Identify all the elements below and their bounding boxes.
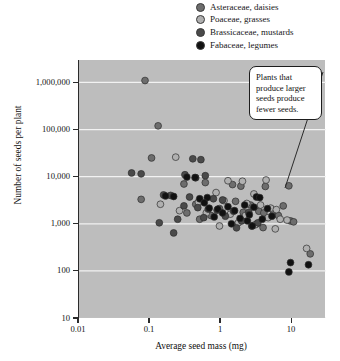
data-point <box>269 213 276 220</box>
x-axis-tick-label: 0.1 <box>129 325 169 334</box>
legend-item-label: Poaceae, grasses <box>210 15 270 24</box>
data-point <box>181 202 188 209</box>
y-axis-tick-label: 10,000 <box>0 172 70 181</box>
data-point <box>170 230 177 237</box>
data-point <box>225 203 232 210</box>
legend-item-label: Brassicaceae, mustards <box>210 28 293 37</box>
circle-marker-icon <box>196 3 205 12</box>
data-point <box>262 183 269 190</box>
data-point <box>148 155 155 162</box>
legend-item-asteraceae: Asteraceae, daisies <box>196 1 340 14</box>
data-point <box>216 223 223 230</box>
data-point <box>172 154 179 161</box>
data-point <box>155 122 162 129</box>
data-point <box>174 216 181 223</box>
y-axis-tick-label: 1,000,000 <box>0 78 70 87</box>
data-point <box>264 205 271 212</box>
data-point <box>285 269 292 276</box>
y-axis-tick-label: 10 <box>0 314 70 323</box>
data-point <box>263 177 270 184</box>
data-point <box>228 220 235 227</box>
data-point <box>189 155 196 162</box>
data-point <box>287 259 294 266</box>
legend-item-label: Fabaceae, legumes <box>210 41 278 50</box>
data-point <box>237 215 244 222</box>
data-point <box>183 210 190 217</box>
y-axis-tick <box>73 223 78 224</box>
data-point <box>138 170 145 177</box>
data-point <box>277 216 284 223</box>
x-axis-title: Average seed mass (mg) <box>70 341 332 351</box>
annotation-text: Plants that produce larger seeds produce… <box>256 72 316 114</box>
data-point <box>162 193 169 200</box>
circle-marker-icon <box>196 41 205 50</box>
data-point <box>272 225 279 232</box>
x-axis-tick-label: 0.01 <box>58 325 98 334</box>
chart-legend: Asteraceae, daisies Poaceae, grasses Bra… <box>196 1 340 51</box>
seed-mass-scatter-figure: Asteraceae, daisies Poaceae, grasses Bra… <box>0 0 340 361</box>
x-axis-tick <box>291 318 292 323</box>
data-point <box>284 217 291 224</box>
circle-marker-icon <box>196 15 205 24</box>
y-axis-tick <box>73 129 78 130</box>
data-point <box>200 214 207 221</box>
data-point <box>211 214 218 221</box>
data-point <box>290 218 297 225</box>
legend-item-label: Asteraceae, daisies <box>210 3 278 12</box>
data-point <box>156 219 163 226</box>
data-point <box>241 202 248 209</box>
data-point <box>202 172 209 179</box>
annotation-callout: Plants that produce larger seeds produce… <box>249 66 322 120</box>
x-axis-tick-label: 10 <box>271 325 311 334</box>
data-point <box>239 178 246 185</box>
circle-marker-icon <box>196 28 205 37</box>
data-point <box>259 216 266 223</box>
data-point <box>181 181 188 188</box>
data-point <box>219 197 226 204</box>
data-point <box>210 195 217 202</box>
data-point <box>192 174 199 181</box>
data-point <box>232 198 239 205</box>
data-point <box>251 204 258 211</box>
data-point <box>128 170 135 177</box>
legend-item-brassicaceae: Brassicaceae, mustards <box>196 26 340 39</box>
data-point <box>198 156 205 163</box>
data-point <box>231 207 238 214</box>
data-point <box>170 193 177 200</box>
data-point <box>186 194 193 201</box>
x-axis-tick-label: 1 <box>200 325 240 334</box>
y-axis-tick <box>73 82 78 83</box>
data-point <box>206 205 213 212</box>
data-point <box>213 189 220 196</box>
data-point <box>273 206 280 213</box>
y-axis-tick <box>73 176 78 177</box>
y-axis-tick <box>73 270 78 271</box>
data-point <box>142 77 149 84</box>
data-point <box>305 261 312 268</box>
data-point <box>246 211 253 218</box>
data-point <box>138 196 145 203</box>
data-point <box>194 204 201 211</box>
data-point <box>280 202 287 209</box>
x-axis-tick <box>219 318 220 323</box>
data-point <box>183 174 190 181</box>
data-point <box>219 210 226 217</box>
data-point <box>249 223 256 230</box>
y-axis-tick-label: 100 <box>0 266 70 275</box>
data-point <box>225 177 232 184</box>
legend-item-poaceae: Poaceae, grasses <box>196 14 340 27</box>
x-axis-tick <box>77 318 78 323</box>
y-axis-title: Number of seeds per plant <box>13 85 23 225</box>
x-axis-tick <box>148 318 149 323</box>
data-point <box>201 199 208 206</box>
legend-item-fabaceae: Fabaceae, legumes <box>196 39 340 52</box>
data-point <box>157 201 164 208</box>
y-axis-tick-label: 100,000 <box>0 125 70 134</box>
data-point <box>202 179 209 186</box>
data-point <box>257 202 264 209</box>
data-point <box>256 194 263 201</box>
y-axis-tick-label: 1,000 <box>0 219 70 228</box>
data-point <box>303 245 310 252</box>
